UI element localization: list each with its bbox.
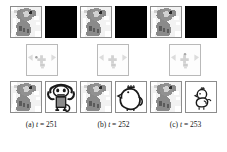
faint-attention-map [169,44,201,76]
panel-group-a-bottom [10,81,77,113]
black-blank-image [185,6,217,38]
monkey-line-drawing [45,81,77,113]
black-blank-image [115,6,147,38]
chicken-line-drawing [115,81,147,113]
faint-attention-map [26,44,58,76]
caption-c-variable: t [180,120,182,129]
caption-a-variable: t [36,120,38,129]
koala-source-image [80,6,112,38]
caption-c-prefix: (c) [170,120,178,129]
caption-panel-a: (a) t = 251 [8,120,75,129]
panel-group-b-top [80,6,147,38]
caption-b-variable: t [108,120,110,129]
caption-c-equals: = [184,120,188,129]
panel-group-b-bottom [80,81,147,113]
figure-row-middle [0,44,227,76]
panel-group-c-top [150,6,217,38]
caption-b-equals: = [112,120,116,129]
panel-group-b-middle [97,44,129,76]
koala-source-image [150,6,182,38]
panel-group-a-top [10,6,77,38]
panel-group-c-bottom [150,81,217,113]
caption-a-value: 251 [46,120,57,129]
panel-group-c-middle [169,44,201,76]
faint-attention-map [97,44,129,76]
koala-source-image [80,81,112,113]
black-blank-image [45,6,77,38]
koala-source-image [150,81,182,113]
caption-a-equals: = [40,120,44,129]
caption-panel-b: (b) t = 252 [80,120,147,129]
koala-source-image [10,6,42,38]
figure-captions: (a) t = 251 (b) t = 252 (c) t = 253 [0,120,227,129]
koala-source-image [10,81,42,113]
figure-container: (a) t = 251 (b) t = 252 (c) t = 253 [0,0,227,152]
caption-panel-c: (c) t = 253 [152,120,219,129]
figure-row-top [0,6,227,38]
figure-row-bottom [0,81,227,113]
caption-c-value: 253 [190,120,201,129]
caption-b-prefix: (b) [98,120,107,129]
caption-b-value: 252 [118,120,129,129]
panel-group-a-middle [26,44,58,76]
chick-line-drawing [185,81,217,113]
caption-a-prefix: (a) [26,120,34,129]
